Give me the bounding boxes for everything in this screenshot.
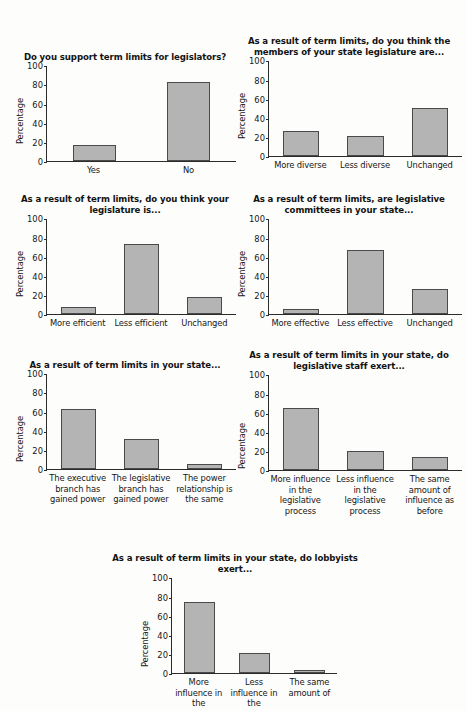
y-tick-label: 0	[260, 152, 265, 162]
plot-canvas	[46, 374, 236, 470]
x-tick-label: The executive branch has gained power	[46, 473, 109, 504]
bar	[347, 136, 383, 157]
y-tick-label: 100	[27, 214, 43, 224]
chart-panel-legislative-staff-influence: As a result of term limits in your state…	[236, 350, 462, 545]
y-tick-label: 0	[260, 466, 265, 476]
x-tick-label: The same amount of	[282, 677, 337, 708]
x-tick-label: The power relationship is the same	[173, 473, 236, 504]
y-axis-label: Percentage	[238, 251, 248, 297]
y-axis-ticks: 100 80 60 40 20 0	[249, 375, 268, 471]
y-tick-label: 60	[32, 100, 43, 110]
bar-cell	[172, 578, 227, 673]
x-axis-labels: More influence in the legislative proces…	[268, 471, 462, 516]
x-tick-label: Less influence in the	[226, 677, 281, 708]
x-axis-labels: More diverse Less diverse Unchanged	[268, 157, 462, 170]
x-tick-label: No	[141, 165, 236, 175]
bar-cell	[269, 219, 333, 314]
x-tick-label: Less efficient	[109, 318, 172, 328]
y-tick-label: 20	[254, 133, 265, 143]
bar-series	[47, 374, 236, 469]
y-tick-label: 80	[254, 390, 265, 400]
bar-cell	[333, 375, 397, 470]
y-tick-label: 20	[157, 650, 168, 660]
y-tick-label: 40	[32, 272, 43, 282]
x-tick-label: The legislative branch has gained power	[109, 473, 172, 504]
y-tick-label: 20	[32, 446, 43, 456]
bar-cell	[398, 61, 462, 156]
chart-panel-committee-effectiveness: As a result of term limits, are legislat…	[236, 194, 462, 344]
bar	[239, 653, 270, 673]
y-tick-label: 60	[32, 253, 43, 263]
y-tick-label: 100	[249, 214, 265, 224]
bar-cell	[333, 61, 397, 156]
y-axis-label-wrap: Percentage	[14, 219, 27, 328]
y-tick-label: 80	[32, 234, 43, 244]
y-tick-label: 80	[32, 388, 43, 398]
bar	[347, 250, 383, 315]
y-tick-label: 40	[254, 272, 265, 282]
y-axis-label: Percentage	[16, 98, 26, 144]
bar	[294, 670, 325, 674]
plot-canvas	[268, 219, 462, 315]
y-axis-ticks: 100 80 60 40 20 0	[27, 66, 46, 162]
y-tick-label: 60	[157, 612, 168, 622]
chart-panel-legislature-efficiency: As a result of term limits, do you think…	[14, 194, 236, 344]
bar-series	[269, 375, 462, 470]
chart-title: As a result of term limits in your state…	[95, 553, 375, 575]
chart-panel-lobbyist-influence: As a result of term limits in your state…	[95, 553, 375, 711]
x-tick-label: More influence in the legislative proces…	[268, 474, 333, 516]
bar-series	[269, 61, 462, 156]
y-tick-label: 40	[157, 631, 168, 641]
x-tick-label: Unchanged	[397, 318, 462, 328]
y-tick-label: 40	[32, 427, 43, 437]
y-axis-label: Percentage	[238, 93, 248, 139]
x-axis-labels: More influence in the Less influence in …	[171, 674, 337, 708]
y-tick-label: 80	[254, 76, 265, 86]
plot-canvas	[46, 66, 236, 162]
x-tick-label: Less effective	[333, 318, 398, 328]
plot-canvas	[268, 375, 462, 471]
y-axis-ticks: 100 80 60 40 20 0	[27, 374, 46, 470]
y-tick-label: 80	[157, 593, 168, 603]
y-tick-label: 60	[254, 253, 265, 263]
y-tick-label: 0	[38, 465, 43, 475]
bar	[184, 602, 215, 673]
y-axis-label: Percentage	[16, 251, 26, 297]
x-tick-label: More efficient	[46, 318, 109, 328]
x-axis-labels: The executive branch has gained power Th…	[46, 470, 236, 504]
x-tick-label: More diverse	[268, 160, 333, 170]
y-axis-label: Percentage	[16, 416, 26, 462]
bar-series	[172, 578, 337, 673]
x-tick-label: Less diverse	[333, 160, 398, 170]
y-axis-ticks: 100 80 60 40 20 0	[27, 219, 46, 315]
bar	[283, 131, 319, 157]
y-tick-label: 60	[254, 95, 265, 105]
bar	[124, 439, 159, 469]
figure-page: Do you support term limits for legislato…	[0, 0, 467, 711]
y-tick-label: 100	[27, 61, 43, 71]
x-tick-label: More influence in the	[171, 677, 226, 708]
y-tick-label: 20	[32, 138, 43, 148]
y-tick-label: 20	[254, 291, 265, 301]
bar-cell	[269, 375, 333, 470]
bar	[347, 451, 383, 470]
bar-series	[269, 219, 462, 314]
y-tick-label: 100	[152, 573, 168, 583]
bar	[412, 108, 448, 156]
chart-panel-members-diversity: As a result of term limits, do you think…	[236, 36, 462, 186]
y-tick-label: 80	[32, 80, 43, 90]
y-tick-label: 60	[254, 409, 265, 419]
chart-title: As a result of term limits, do you think…	[14, 194, 236, 216]
y-tick-label: 0	[260, 310, 265, 320]
x-axis-labels: Yes No	[46, 162, 236, 175]
chart-panel-support-term-limits: Do you support term limits for legislato…	[14, 52, 236, 182]
y-axis-label-wrap: Percentage	[14, 66, 27, 175]
x-tick-label: The same amount of influence as before	[397, 474, 462, 516]
bar	[187, 464, 222, 469]
x-tick-label: Unchanged	[173, 318, 236, 328]
y-axis-ticks: 100 80 60 40 20 0	[152, 578, 171, 674]
chart-title: Do you support term limits for legislato…	[14, 52, 236, 63]
bar-series	[47, 219, 236, 314]
x-axis-labels: More effective Less effective Unchanged	[268, 315, 462, 328]
y-tick-label: 20	[254, 447, 265, 457]
